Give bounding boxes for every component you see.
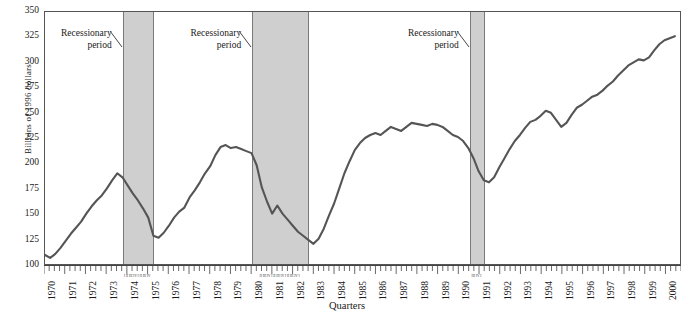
annotation-leader-line bbox=[110, 30, 126, 50]
year-label: 1975 bbox=[152, 281, 162, 300]
y-tick-label: 350 bbox=[13, 6, 39, 16]
year-label: 1984 bbox=[338, 281, 348, 300]
year-label: 1978 bbox=[214, 281, 224, 300]
year-label: 1979 bbox=[234, 281, 244, 300]
band-quarter-labels: I II III IV I II III IV bbox=[124, 274, 151, 278]
annotation-line-1: Recessionary bbox=[169, 28, 241, 40]
year-label: 1977 bbox=[193, 281, 203, 300]
year-label: 1995 bbox=[566, 281, 576, 300]
year-label: 1994 bbox=[545, 281, 555, 300]
year-label: 1973 bbox=[110, 281, 120, 300]
chart-figure: Billions of 1996 dollars 350325300275250… bbox=[0, 0, 694, 324]
year-label: 1987 bbox=[400, 281, 410, 300]
x-axis: I II III IV I II III IVII III IV I II II… bbox=[44, 265, 681, 324]
annotation-line-1: Recessionary bbox=[387, 28, 459, 40]
recession-annotation: Recessionaryperiod bbox=[387, 28, 459, 51]
band-quarter-labels: III IV I bbox=[472, 274, 482, 278]
year-label: 1983 bbox=[317, 281, 327, 300]
year-label: 1990 bbox=[462, 281, 472, 300]
y-tick-label: 125 bbox=[13, 235, 39, 245]
annotation-line-2: period bbox=[40, 40, 112, 52]
year-label: 1981 bbox=[276, 281, 286, 300]
annotation-line-2: period bbox=[169, 40, 241, 52]
year-label: 2000 bbox=[669, 281, 679, 300]
year-label: 1991 bbox=[483, 281, 493, 300]
year-label: 1982 bbox=[297, 281, 307, 300]
recession-annotation: Recessionaryperiod bbox=[40, 28, 112, 51]
year-label: 1971 bbox=[69, 281, 79, 300]
year-label: 1980 bbox=[255, 281, 265, 300]
y-axis-tick-labels: 350325300275250225200175150125100 bbox=[13, 0, 39, 324]
year-label: 1996 bbox=[587, 281, 597, 300]
y-tick-label: 200 bbox=[13, 158, 39, 168]
year-label: 1974 bbox=[131, 281, 141, 300]
annotation-leader-line bbox=[239, 30, 255, 50]
y-tick-label: 225 bbox=[13, 133, 39, 143]
x-axis-ticks bbox=[44, 265, 681, 274]
year-label: 1999 bbox=[649, 281, 659, 300]
y-tick-label: 150 bbox=[13, 209, 39, 219]
year-label: 1976 bbox=[172, 281, 182, 300]
y-tick-label: 100 bbox=[13, 260, 39, 270]
year-label: 1993 bbox=[524, 281, 534, 300]
annotation-line-2: period bbox=[387, 40, 459, 52]
data-line bbox=[45, 12, 680, 264]
year-label: 1972 bbox=[89, 281, 99, 300]
year-label: 1970 bbox=[48, 281, 58, 300]
year-label: 1988 bbox=[421, 281, 431, 300]
series-path bbox=[45, 36, 675, 258]
year-label: 1986 bbox=[379, 281, 389, 300]
year-label: 1998 bbox=[628, 281, 638, 300]
plot-area bbox=[44, 11, 681, 265]
y-tick-label: 300 bbox=[13, 57, 39, 67]
x-axis-title: Quarters bbox=[0, 300, 694, 311]
y-tick-label: 250 bbox=[13, 108, 39, 118]
y-tick-label: 325 bbox=[13, 31, 39, 41]
year-label: 1985 bbox=[359, 281, 369, 300]
y-tick-label: 275 bbox=[13, 82, 39, 92]
y-tick-label: 175 bbox=[13, 184, 39, 194]
year-label: 1992 bbox=[504, 281, 514, 300]
recession-annotation: Recessionaryperiod bbox=[169, 28, 241, 51]
annotation-leader-line bbox=[457, 30, 473, 50]
year-label: 1989 bbox=[442, 281, 452, 300]
annotation-line-1: Recessionary bbox=[40, 28, 112, 40]
band-quarter-labels: II III IV I II III IV I II III IV I bbox=[260, 274, 300, 278]
year-label: 1997 bbox=[607, 281, 617, 300]
